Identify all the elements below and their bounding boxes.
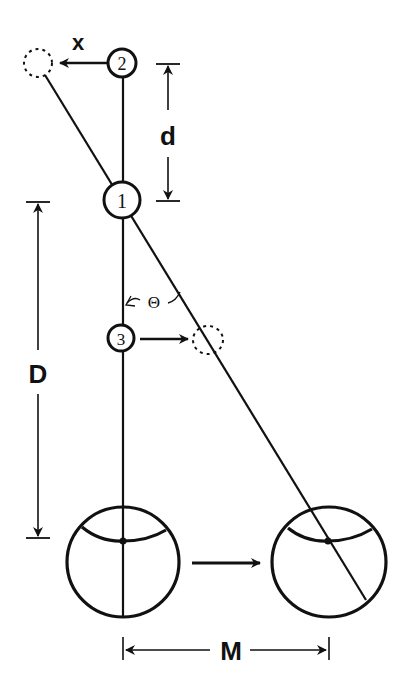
diagram: x 2 1 d D Θ 3: [0, 0, 408, 694]
D-label: D: [29, 359, 48, 389]
theta-label: Θ: [148, 293, 160, 312]
point-1: 1: [104, 182, 140, 218]
point-3: 3: [108, 325, 134, 351]
right-eye: [272, 507, 386, 617]
x-label: x: [72, 30, 85, 55]
M-label: M: [220, 636, 242, 666]
ghost-circle-2: [24, 49, 52, 77]
svg-text:2: 2: [118, 54, 127, 74]
point-2: 2: [108, 49, 136, 77]
svg-text:1: 1: [117, 190, 127, 212]
d-label: d: [160, 121, 176, 151]
slanted-line: [45, 75, 366, 600]
svg-text:3: 3: [117, 330, 126, 349]
